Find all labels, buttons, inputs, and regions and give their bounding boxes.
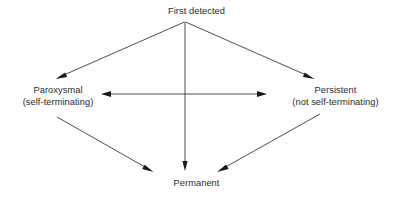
- node-paroxysmal: Paroxysmal (self-terminating): [0, 84, 116, 109]
- node-paroxysmal-label: Paroxysmal: [0, 84, 116, 96]
- arrowhead-icon: [182, 161, 187, 171]
- arrowhead-icon: [142, 165, 153, 172]
- node-first-detected: First detected: [0, 5, 393, 17]
- node-persistent: Persistent (not self-terminating): [278, 84, 393, 109]
- edge-first-detected-to-permanent: [182, 22, 187, 171]
- node-persistent-sublabel: (not self-terminating): [278, 96, 393, 108]
- node-persistent-label: Persistent: [278, 84, 393, 96]
- edge-line: [186, 22, 310, 77]
- edge-paroxysmal-persistent-bidirectional: [101, 91, 267, 97]
- node-first-detected-label: First detected: [0, 5, 393, 17]
- edge-persistent-to-permanent: [217, 114, 320, 172]
- diagram-canvas: First detected Paroxysmal (self-terminat…: [0, 0, 393, 197]
- arrowhead-icon: [303, 72, 315, 79]
- arrowhead-icon: [56, 72, 68, 79]
- edge-paroxysmal-to-permanent: [57, 117, 154, 172]
- edge-first-detected-to-persistent: [186, 22, 315, 79]
- node-permanent: Permanent: [0, 177, 393, 189]
- edge-first-detected-to-paroxysmal: [56, 22, 185, 79]
- node-paroxysmal-sublabel: (self-terminating): [0, 96, 116, 108]
- node-permanent-label: Permanent: [0, 177, 393, 189]
- arrowhead-icon: [257, 91, 267, 97]
- edge-line: [222, 114, 320, 169]
- edge-line: [61, 22, 185, 77]
- edge-line: [57, 117, 149, 169]
